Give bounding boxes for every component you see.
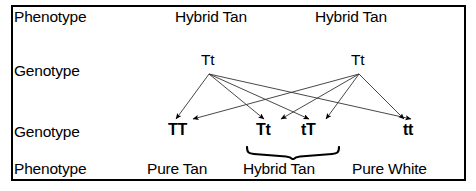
parent-phenotype-right: Hybrid Tan <box>315 9 387 25</box>
row-label-genotype-offspring: Genotype <box>14 124 80 140</box>
offspring-genotype-tt-heterozygous-1: Tt <box>256 122 271 138</box>
offspring-phenotype-hybrid-tan: Hybrid Tan <box>243 161 315 177</box>
diagram-frame <box>11 5 466 181</box>
parent-genotype-left: Tt <box>201 52 214 68</box>
row-label-phenotype-parents: Phenotype <box>14 9 86 25</box>
offspring-genotype-tt-homozygous-dominant: TT <box>168 122 187 138</box>
offspring-phenotype-pure-white: Pure White <box>352 161 427 177</box>
row-label-phenotype-offspring: Phenotype <box>14 161 86 177</box>
punnett-cross-diagram: Phenotype Genotype Genotype Phenotype Hy… <box>0 0 476 191</box>
offspring-genotype-tt-homozygous-recessive: tt <box>403 122 413 138</box>
row-label-genotype-parents: Genotype <box>14 63 80 79</box>
parent-phenotype-left: Hybrid Tan <box>175 9 247 25</box>
offspring-genotype-tt-heterozygous-2: tT <box>301 122 316 138</box>
offspring-phenotype-pure-tan: Pure Tan <box>147 161 207 177</box>
parent-genotype-right: Tt <box>351 52 364 68</box>
